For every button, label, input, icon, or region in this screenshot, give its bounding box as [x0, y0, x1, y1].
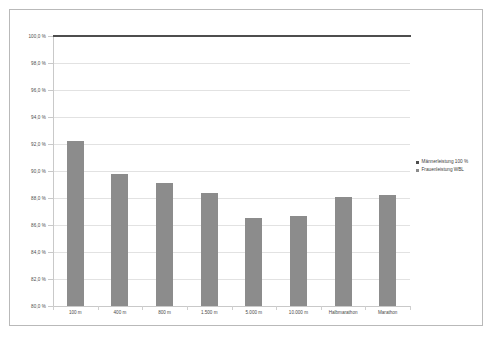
- y-axis-tick-label: 98,0 %: [31, 61, 46, 66]
- plot-area: 100,0 %98,0 %96,0 %94,0 %92,0 %90,0 %88,…: [53, 36, 410, 306]
- bar-10-000-m: [290, 216, 307, 306]
- y-axis-tick-label: 86,0 %: [31, 223, 46, 228]
- x-axis-tick: [365, 306, 366, 310]
- bar-5-000-m: [245, 218, 262, 306]
- bar-halbmarathon: [335, 197, 352, 306]
- x-axis-tick-label: 100 m: [69, 310, 82, 315]
- bar-800-m: [156, 183, 173, 306]
- bar-100-m: [67, 141, 84, 306]
- legend-swatch-icon: [416, 169, 419, 172]
- bar-1-500-m: [201, 193, 218, 306]
- legend-item: Männerleistung 100 %: [416, 160, 468, 165]
- reference-line-100-percent: [53, 35, 411, 37]
- x-axis-tick-label: Halbmarathon: [329, 310, 358, 315]
- y-axis-tick-label: 92,0 %: [31, 142, 46, 147]
- y-axis-tick-label: 100,0 %: [28, 34, 46, 39]
- x-axis-tick: [142, 306, 143, 310]
- gridline: [53, 198, 410, 199]
- y-axis-tick-label: 96,0 %: [31, 88, 46, 93]
- x-axis-tick: [410, 306, 411, 310]
- gridline: [53, 90, 410, 91]
- legend-item-label: Männerleistung 100 %: [422, 160, 469, 165]
- y-axis-tick-label: 94,0 %: [31, 115, 46, 120]
- page-frame: 100,0 %98,0 %96,0 %94,0 %92,0 %90,0 %88,…: [9, 9, 483, 326]
- y-axis-tick-label: 90,0 %: [31, 169, 46, 174]
- gridline: [53, 144, 410, 145]
- legend-item-label: Frauenleistung WBL: [422, 168, 464, 173]
- gridline: [53, 171, 410, 172]
- x-axis-tick: [276, 306, 277, 310]
- gridline: [53, 63, 410, 64]
- x-axis-tick-label: 1.500 m: [201, 310, 218, 315]
- y-axis-line: [53, 36, 54, 307]
- x-axis-tick-label: 800 m: [158, 310, 171, 315]
- gridline: [53, 225, 410, 226]
- gridline: [53, 279, 410, 280]
- legend-item: Frauenleistung WBL: [416, 168, 468, 173]
- x-axis-tick: [98, 306, 99, 310]
- gridline: [53, 117, 410, 118]
- x-axis-tick: [53, 306, 54, 310]
- chart-legend: Männerleistung 100 %Frauenleistung WBL: [416, 160, 468, 175]
- y-axis-tick-label: 84,0 %: [31, 250, 46, 255]
- y-axis-tick-label: 82,0 %: [31, 277, 46, 282]
- y-axis-tick-label: 80,0 %: [31, 304, 46, 309]
- x-axis-tick: [232, 306, 233, 310]
- y-axis-tick-label: 88,0 %: [31, 196, 46, 201]
- x-axis-tick-label: Marathon: [378, 310, 397, 315]
- x-axis-tick: [187, 306, 188, 310]
- gridline: [53, 252, 410, 253]
- legend-swatch-icon: [416, 161, 419, 164]
- bar-marathon: [379, 195, 396, 306]
- x-axis-tick-label: 5.000 m: [246, 310, 263, 315]
- bar-400-m: [111, 174, 128, 306]
- chart-page: 100,0 %98,0 %96,0 %94,0 %92,0 %90,0 %88,…: [0, 0, 495, 337]
- x-axis-tick-label: 10.000 m: [289, 310, 308, 315]
- x-axis-tick-label: 400 m: [114, 310, 127, 315]
- x-axis-tick: [321, 306, 322, 310]
